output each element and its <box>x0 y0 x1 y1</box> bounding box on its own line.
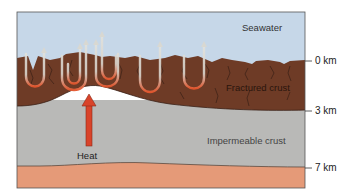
seawater-label: Seawater <box>242 22 282 33</box>
depth-label-0km: 0 km <box>315 55 337 66</box>
impermeable-crust-label: Impermeable crust <box>207 135 286 146</box>
diagram-canvas <box>0 0 354 195</box>
depth-label-7km: 7 km <box>315 162 337 173</box>
hydrothermal-circulation-diagram: Seawater Fractured crust Impermeable cru… <box>0 0 354 195</box>
depth-ticks <box>305 61 312 168</box>
depth-label-3km: 3 km <box>315 105 337 116</box>
fractured-crust-label: Fractured crust <box>226 82 290 93</box>
heat-label: Heat <box>77 150 97 161</box>
